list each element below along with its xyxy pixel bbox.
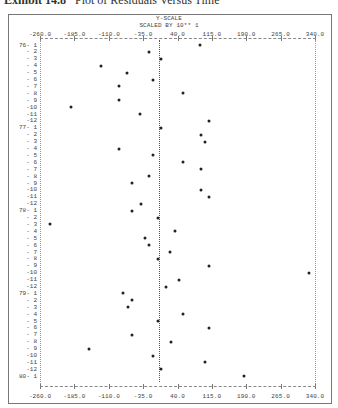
- y-scale-heading: Y-SCALE: [0, 15, 338, 22]
- scale-factor-label: SCALED BY 10** 1: [0, 22, 338, 29]
- residual-point: [131, 333, 134, 336]
- residual-point: [148, 175, 151, 178]
- residual-point: [204, 140, 207, 143]
- residual-point: [121, 292, 124, 295]
- residual-point: [152, 354, 155, 357]
- residual-point: [49, 223, 52, 226]
- residual-point: [182, 313, 185, 316]
- bottom-x-tick-label: -110.0: [98, 393, 120, 400]
- residual-point: [177, 278, 180, 281]
- residual-point: [182, 92, 185, 95]
- residual-point: [143, 237, 146, 240]
- right-plot-border: [315, 40, 317, 384]
- residual-point: [199, 188, 202, 191]
- residual-point: [117, 99, 120, 102]
- bottom-x-tick-label: -185.0: [63, 393, 85, 400]
- residual-point: [160, 126, 163, 129]
- residual-point: [199, 168, 202, 171]
- residual-point: [148, 50, 151, 53]
- residual-point: [160, 57, 163, 60]
- residual-point: [157, 216, 160, 219]
- residual-point: [208, 264, 211, 267]
- residual-point: [308, 271, 311, 274]
- residual-point: [126, 71, 129, 74]
- residual-point: [70, 106, 73, 109]
- residual-point: [208, 119, 211, 122]
- residual-point: [165, 285, 168, 288]
- residual-point: [204, 361, 207, 364]
- residual-point: [182, 161, 185, 164]
- residual-point: [117, 85, 120, 88]
- residual-point: [170, 340, 173, 343]
- residual-point: [152, 78, 155, 81]
- plot-frame: [8, 14, 332, 404]
- residual-point: [138, 113, 141, 116]
- residual-point: [139, 202, 142, 205]
- residual-point: [131, 299, 134, 302]
- residual-point: [152, 154, 155, 157]
- residual-point: [157, 320, 160, 323]
- time-row-label: 80- 1: [0, 373, 37, 380]
- exhibit-title: Exhibit 14.8 Plot of Residuals Versus Ti…: [4, 0, 219, 8]
- zero-reference-line: [159, 40, 160, 382]
- bottom-axis-line: [40, 386, 316, 387]
- bottom-x-tick-label: 40.0: [170, 393, 185, 400]
- residual-point: [157, 257, 160, 260]
- residual-point: [131, 209, 134, 212]
- residual-point: [160, 368, 163, 371]
- bottom-x-tick-label: 265.0: [271, 393, 290, 400]
- left-plot-border: [40, 40, 42, 384]
- residual-point: [117, 147, 120, 150]
- residual-point: [174, 230, 177, 233]
- residual-point: [208, 326, 211, 329]
- residual-point: [131, 182, 134, 185]
- bottom-x-tick-label: 190.0: [237, 393, 256, 400]
- bottom-x-tick-label: -35.0: [134, 393, 153, 400]
- exhibit-number: Exhibit 14.8: [4, 0, 66, 7]
- residual-point: [99, 64, 102, 67]
- residual-point: [169, 251, 172, 254]
- exhibit-caption: Plot of Residuals Versus Time: [75, 0, 219, 7]
- residual-point: [148, 244, 151, 247]
- residual-point: [208, 195, 211, 198]
- top-axis-line: [40, 38, 316, 39]
- bottom-x-tick-label: -260.0: [29, 393, 51, 400]
- residual-point: [127, 306, 130, 309]
- residual-point: [199, 133, 202, 136]
- bottom-x-tick-label: 115.0: [203, 393, 222, 400]
- residual-point: [199, 44, 202, 47]
- residual-point: [88, 347, 91, 350]
- bottom-x-tick-label: 340.0: [306, 393, 325, 400]
- residual-point: [242, 375, 245, 378]
